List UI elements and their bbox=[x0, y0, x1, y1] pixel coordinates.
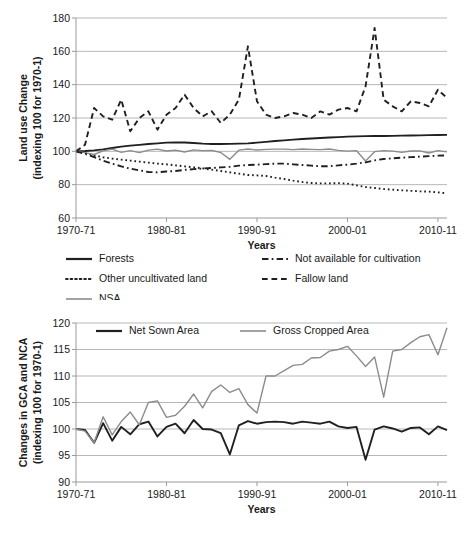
x-axis-title: Years bbox=[247, 239, 275, 251]
y-tick-label-180: 180 bbox=[52, 12, 70, 24]
y-tick-label-90: 90 bbox=[58, 476, 70, 488]
y-tick-label-80: 80 bbox=[58, 178, 70, 190]
x-tick-label-2000-01: 2000-01 bbox=[328, 488, 367, 500]
x-axis-title-group: Years bbox=[247, 503, 275, 515]
gca-nca-change-svg: 90951001051101151201970-711980-811990-91… bbox=[0, 305, 464, 545]
x-tick-label-1970-71: 1970-71 bbox=[57, 224, 96, 236]
x-tick-label-2010-11: 2010-11 bbox=[419, 488, 457, 500]
x-tick-label-1970-71: 1970-71 bbox=[57, 488, 96, 500]
tick-labels-group: 90951001051101151201970-711980-811990-91… bbox=[52, 317, 457, 500]
y-axis-title-group: Changes in GCA and NCA(indexing 100 for … bbox=[17, 337, 43, 467]
y-tick-label-140: 140 bbox=[52, 78, 70, 90]
series-line-net-sown-area bbox=[76, 420, 447, 460]
x-tick-label-1990-91: 1990-91 bbox=[238, 224, 277, 236]
chart-gca-nca-change: 90951001051101151201970-711980-811990-91… bbox=[0, 305, 464, 545]
legend-group: ForestsNot available for cultivationOthe… bbox=[66, 252, 421, 300]
y-tick-label-60: 60 bbox=[58, 212, 70, 224]
y-tick-label-100: 100 bbox=[52, 145, 70, 157]
figure-two-line-charts: 60801001201401601801970-711980-811990-91… bbox=[0, 0, 464, 545]
y-tick-label-160: 160 bbox=[52, 45, 70, 57]
legend-label-fallow-land: Fallow land bbox=[295, 272, 348, 284]
legend-label-not-available-for-cultivation: Not available for cultivation bbox=[295, 252, 421, 264]
x-tick-label-2000-01: 2000-01 bbox=[328, 224, 367, 236]
y-axis-title-line-1: Land use Change bbox=[17, 74, 29, 162]
y-axis-title-line-1: Changes in GCA and NCA bbox=[17, 337, 29, 467]
y-tick-label-105: 105 bbox=[52, 396, 70, 408]
x-tick-label-1980-81: 1980-81 bbox=[147, 224, 186, 236]
series-line-fallow-land bbox=[76, 28, 447, 151]
land-use-change-svg: 60801001201401601801970-711980-811990-91… bbox=[0, 0, 464, 300]
gridlines-group bbox=[76, 18, 447, 185]
x-axis-title-group: Years bbox=[247, 239, 275, 251]
x-tick-label-1980-81: 1980-81 bbox=[147, 488, 186, 500]
y-axis-title-group: Land use Change(indexing 100 for 1970-1) bbox=[17, 56, 43, 179]
y-tick-label-120: 120 bbox=[52, 317, 70, 329]
legend-label-net-sown-area: Net Sown Area bbox=[129, 324, 199, 336]
legend-group: Net Sown AreaGross Cropped Area bbox=[96, 324, 369, 336]
series-line-other-uncultivated-land bbox=[76, 151, 447, 193]
legend-label-gross-cropped-area: Gross Cropped Area bbox=[273, 324, 369, 336]
series-group bbox=[76, 28, 447, 193]
y-tick-label-110: 110 bbox=[53, 370, 70, 382]
series-line-gross-cropped-area bbox=[76, 328, 447, 443]
gridlines-group bbox=[76, 323, 447, 456]
x-tick-label-2010-11: 2010-11 bbox=[419, 224, 457, 236]
x-tick-label-1990-91: 1990-91 bbox=[238, 488, 277, 500]
chart-land-use-change: 60801001201401601801970-711980-811990-91… bbox=[0, 0, 464, 300]
legend-label-forests: Forests bbox=[99, 252, 134, 264]
series-line-not-available-for-cultivation bbox=[76, 151, 447, 172]
series-group bbox=[76, 328, 447, 460]
y-axis-title-line-2: (indexing 100 for 1970-1) bbox=[31, 56, 43, 179]
x-axis-title: Years bbox=[247, 503, 275, 515]
legend-label-nsa: NSA bbox=[99, 292, 121, 300]
y-tick-label-120: 120 bbox=[52, 112, 70, 124]
tick-labels-group: 60801001201401601801970-711980-811990-91… bbox=[52, 12, 457, 236]
y-tick-label-95: 95 bbox=[58, 449, 70, 461]
y-axis-title-line-2: (indexing 100 for 1970-1) bbox=[31, 341, 43, 464]
series-line-nsa bbox=[76, 149, 447, 161]
series-line-forests bbox=[76, 135, 447, 152]
y-tick-label-115: 115 bbox=[53, 343, 70, 355]
legend-label-other-uncultivated-land: Other uncultivated land bbox=[99, 272, 207, 284]
y-tick-label-100: 100 bbox=[52, 423, 70, 435]
